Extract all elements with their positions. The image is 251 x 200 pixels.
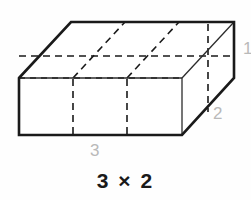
front-face xyxy=(19,78,182,135)
dimension-label-width: 2 xyxy=(213,105,222,122)
figure-canvas: 3 2 1 3 × 2 xyxy=(0,0,251,200)
dimension-label-height: 1 xyxy=(243,40,251,57)
dimension-label-length: 3 xyxy=(90,142,99,159)
figure-caption: 3 × 2 xyxy=(0,170,251,191)
